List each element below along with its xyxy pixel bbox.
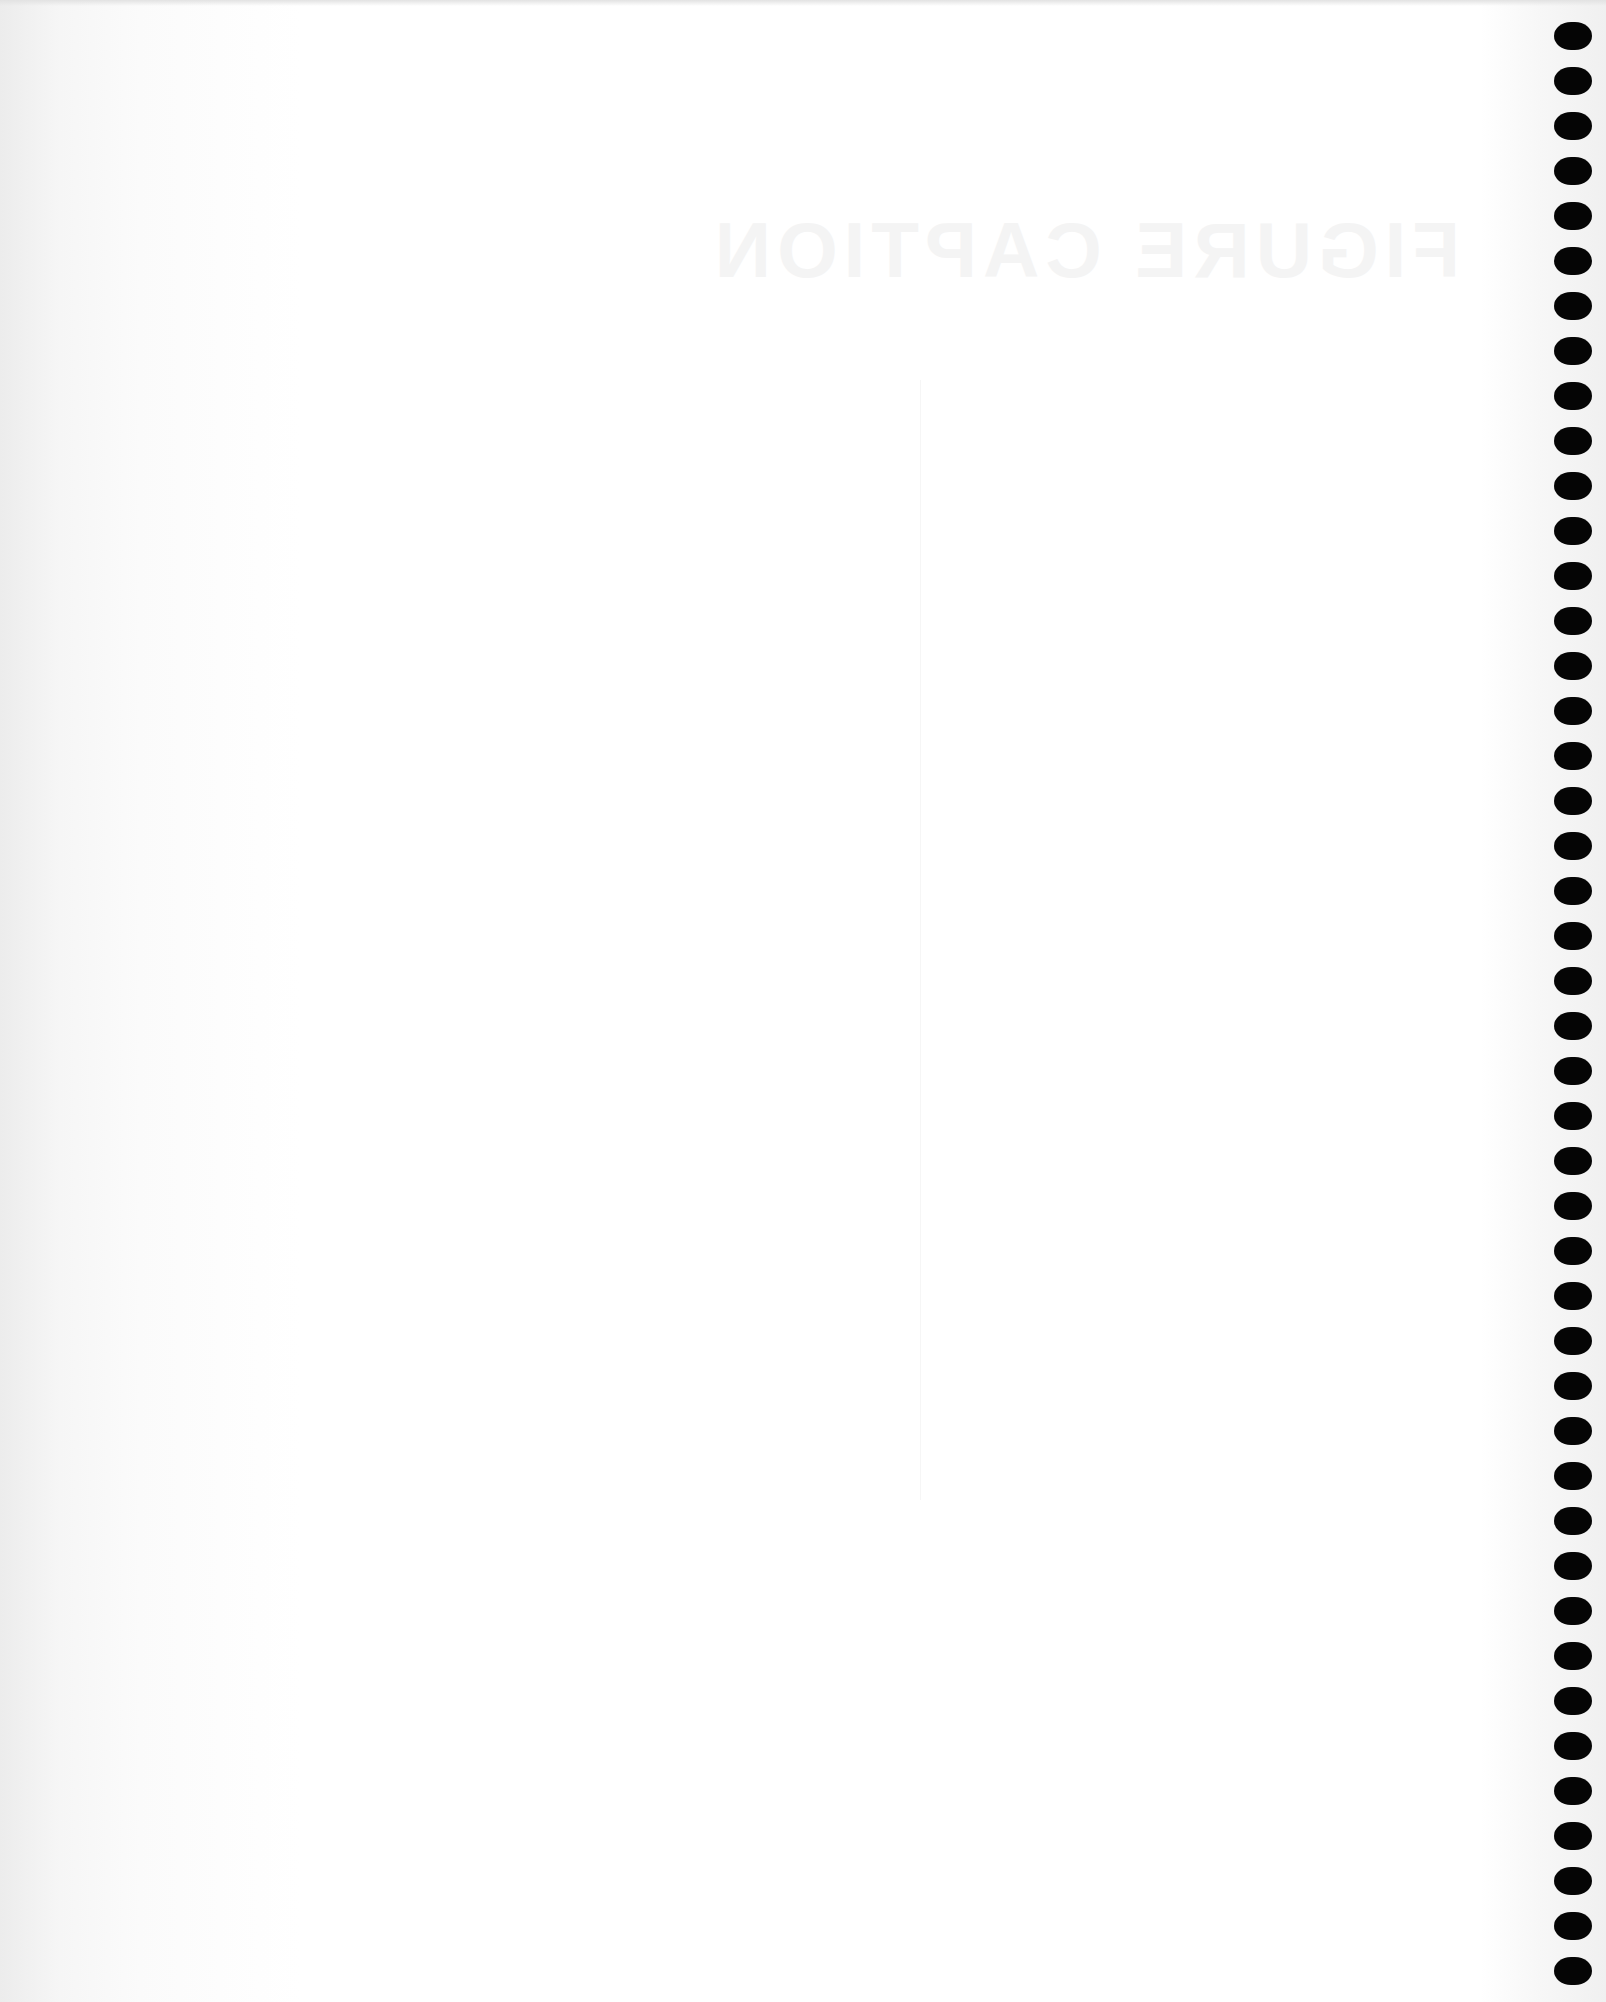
binding-hole xyxy=(1554,1147,1592,1175)
binding-hole xyxy=(1554,1012,1592,1040)
binding-hole xyxy=(1554,1507,1592,1535)
binding-hole xyxy=(1554,1327,1592,1355)
binding-hole xyxy=(1554,1867,1592,1895)
binding-hole xyxy=(1554,1192,1592,1220)
binding-hole xyxy=(1554,1687,1592,1715)
binding-hole xyxy=(1554,1912,1592,1940)
binding-hole xyxy=(1554,877,1592,905)
binding-holes-strip xyxy=(1544,0,1600,2002)
binding-hole xyxy=(1554,562,1592,590)
binding-hole xyxy=(1554,337,1592,365)
binding-hole xyxy=(1554,1372,1592,1400)
binding-hole xyxy=(1554,112,1592,140)
binding-hole xyxy=(1554,202,1592,230)
binding-hole xyxy=(1554,427,1592,455)
binding-hole xyxy=(1554,607,1592,635)
binding-hole xyxy=(1554,1102,1592,1130)
binding-hole xyxy=(1554,472,1592,500)
binding-hole xyxy=(1554,22,1592,50)
binding-hole xyxy=(1554,247,1592,275)
binding-hole xyxy=(1554,1957,1592,1985)
binding-hole xyxy=(1554,292,1592,320)
binding-hole xyxy=(1554,1777,1592,1805)
binding-hole xyxy=(1554,382,1592,410)
binding-hole xyxy=(1554,1237,1592,1265)
binding-hole xyxy=(1554,1057,1592,1085)
binding-hole xyxy=(1554,157,1592,185)
binding-hole xyxy=(1554,1642,1592,1670)
binding-hole xyxy=(1554,1417,1592,1445)
binding-hole xyxy=(1554,1822,1592,1850)
binding-hole xyxy=(1554,517,1592,545)
binding-hole xyxy=(1554,1462,1592,1490)
binding-hole xyxy=(1554,1732,1592,1760)
binding-hole xyxy=(1554,832,1592,860)
binding-hole xyxy=(1554,1282,1592,1310)
binding-hole xyxy=(1554,1552,1592,1580)
binding-hole xyxy=(1554,967,1592,995)
binding-hole xyxy=(1554,652,1592,680)
binding-hole xyxy=(1554,67,1592,95)
binding-hole xyxy=(1554,787,1592,815)
binding-hole xyxy=(1554,922,1592,950)
showthrough-title: FIGURE CAPTION xyxy=(820,205,1460,295)
binding-hole xyxy=(1554,697,1592,725)
showthrough-line xyxy=(920,380,921,1500)
binding-hole xyxy=(1554,742,1592,770)
page-top-edge xyxy=(0,0,1606,6)
binding-hole xyxy=(1554,1597,1592,1625)
